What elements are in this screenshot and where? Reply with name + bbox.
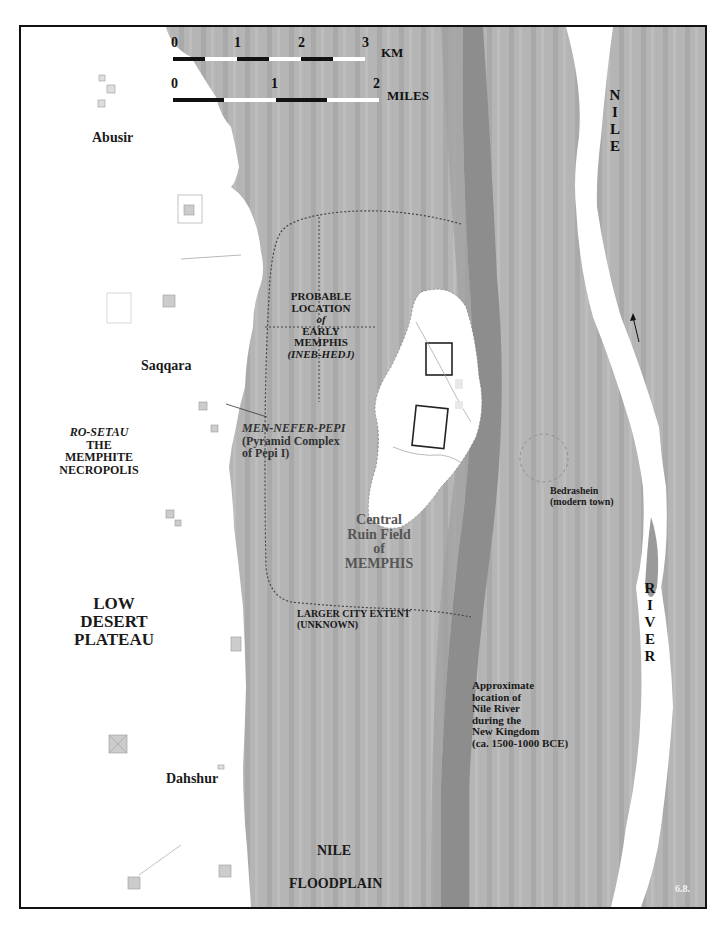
scale-miles-bar	[173, 98, 379, 102]
label-necropolis: RO-SETAU THE MEMPHITE NECROPOLIS	[44, 426, 154, 476]
scale-miles-tick-1: 1	[271, 76, 278, 92]
label-saqqara: Saqqara	[141, 359, 192, 374]
label-larger-city-extent: LARGER CITY EXTENT (UNKNOWN)	[297, 609, 411, 630]
label-low-desert-plateau: LOW DESERT PLATEAU	[64, 595, 164, 649]
text-line: MEMPHIS	[324, 557, 434, 572]
label-men-nefer-pepi: MEN-NEFER-PEPI (Pyramid Complex of Pepi …	[242, 422, 345, 460]
scale-km-tick-0: 0	[171, 35, 178, 51]
text-line: of	[271, 314, 371, 326]
label-early-memphis: PROBABLE LOCATION of EARLY MEMPHIS (INEB…	[271, 291, 371, 360]
letter: E	[607, 138, 623, 155]
text-line: MEMPHITE	[44, 451, 154, 464]
text-line: New Kingdom	[472, 726, 568, 738]
scale-km-bar	[173, 57, 365, 61]
text-line: PROBABLE	[271, 291, 371, 303]
text-line: NECROPOLIS	[44, 464, 154, 477]
text-line: PLATEAU	[64, 631, 164, 649]
text-line: Approximate	[472, 680, 568, 692]
scale-bar-miles: 0 1 2 MILES	[171, 76, 511, 108]
scale-km-tick-2: 2	[298, 35, 305, 51]
text-line: Bedrashein	[550, 486, 614, 497]
text-line: LOW	[64, 595, 164, 613]
figure-number: 6.8.	[675, 883, 690, 894]
scale-miles-unit: MILES	[387, 88, 429, 104]
text-line: Ruin Field	[324, 528, 434, 543]
text-line: (modern town)	[550, 497, 614, 508]
label-nile-floodplain: NILE FLOODPLAIN	[289, 834, 379, 900]
text-line: of	[324, 542, 434, 557]
river-label-river: R I V E R	[642, 580, 658, 665]
scale-miles-tick-2: 2	[373, 76, 380, 92]
text-line: Central	[324, 513, 434, 528]
text-line: (ca. 1500-1000 BCE)	[472, 738, 568, 750]
letter: I	[642, 597, 658, 614]
label-ro-setau: RO-SETAU	[44, 426, 154, 439]
letter: E	[642, 631, 658, 648]
label-abusir: Abusir	[92, 131, 133, 146]
text-line: of Pepi I)	[242, 447, 345, 460]
scale-miles-tick-0: 0	[171, 76, 178, 92]
label-ancient-nile-location: Approximate location of Nile River durin…	[472, 680, 568, 749]
label-dahshur: Dahshur	[166, 772, 218, 787]
scale-km-unit: KM	[381, 45, 403, 61]
scale-bar-km: 0 1 2 3 KM	[171, 35, 491, 67]
label-ineb-hedj: (INEB-HEDJ)	[271, 349, 371, 361]
text-line: LARGER CITY EXTENT	[297, 609, 411, 620]
text-line: Nile River	[472, 703, 568, 715]
letter: L	[607, 121, 623, 138]
text-line: DESERT	[64, 613, 164, 631]
text-line: MEN-NEFER-PEPI	[242, 422, 345, 435]
letter: I	[607, 104, 623, 121]
text-line: NILE	[289, 834, 379, 867]
letter: N	[607, 87, 623, 104]
text-line: (UNKNOWN)	[297, 620, 411, 631]
scale-km-tick-1: 1	[234, 35, 241, 51]
letter: R	[642, 648, 658, 665]
scale-km-tick-3: 3	[362, 35, 369, 51]
letter: V	[642, 614, 658, 631]
letter: R	[642, 580, 658, 597]
river-label-nile: N I L E	[607, 87, 623, 155]
label-central-ruin-field: Central Ruin Field of MEMPHIS	[324, 513, 434, 572]
text-line: MEMPHIS	[271, 337, 371, 349]
label-bedrashein: Bedrashein (modern town)	[550, 486, 614, 507]
map-frame: 0 1 2 3 KM 0 1 2 MILES N I L E R I V E R…	[19, 25, 707, 909]
text-line: FLOODPLAIN	[289, 867, 379, 900]
